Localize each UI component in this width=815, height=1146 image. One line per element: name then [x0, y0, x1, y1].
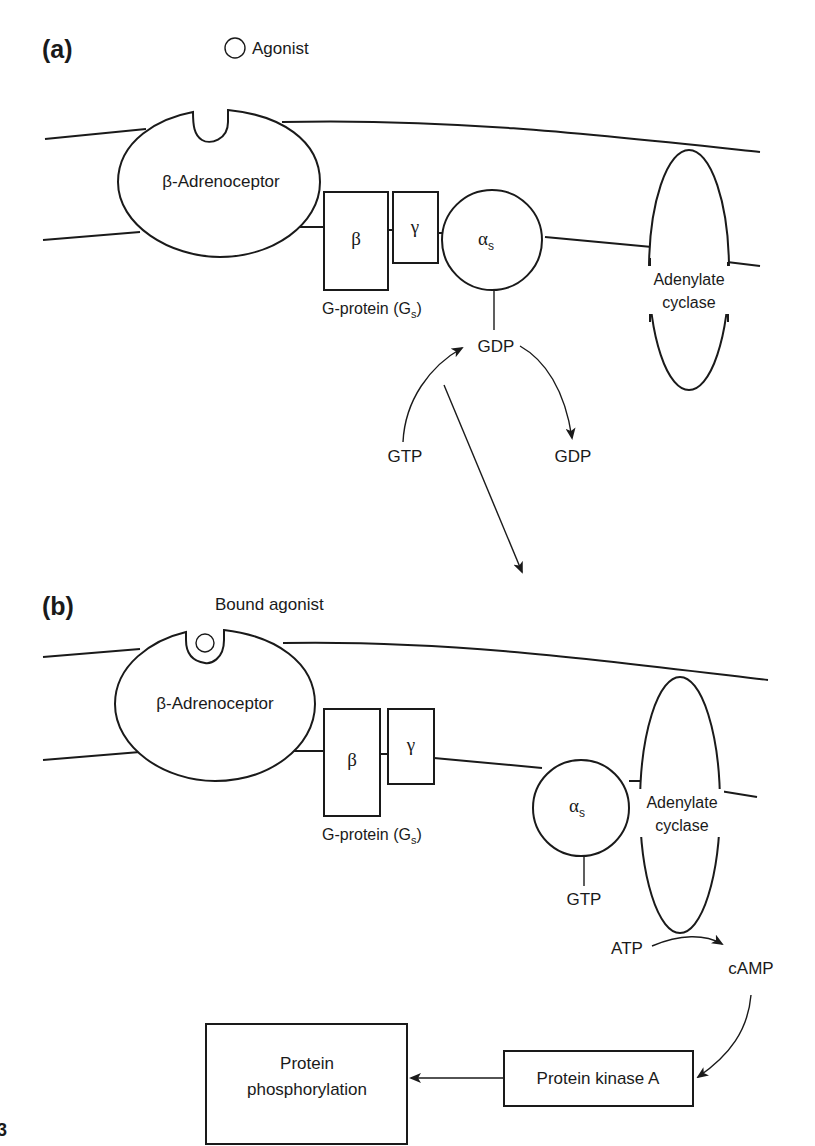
protein-phosphorylation-line2: phosphorylation	[247, 1080, 367, 1099]
g-protein-label: G-protein (Gs)	[322, 826, 422, 846]
agonist-label: Agonist	[252, 39, 309, 58]
g-beta-label: β	[351, 228, 361, 249]
membrane-outer-left	[45, 129, 146, 139]
panel-a-label: (a)	[42, 35, 73, 63]
membrane-inner-right	[720, 791, 757, 797]
g-gamma-label: γ	[410, 216, 419, 237]
agonist-icon	[225, 38, 245, 58]
membrane-inner-mid	[434, 758, 542, 768]
adenylate-cyclase-label-line2: cyclase	[655, 817, 708, 834]
g-beta-label: β	[347, 749, 357, 770]
membrane-inner-right	[727, 262, 760, 266]
g-gamma-label: γ	[406, 734, 415, 755]
protein-phosphorylation-line1: Protein	[280, 1054, 334, 1073]
membrane-inner-mid	[545, 237, 652, 247]
membrane-outer-right	[282, 121, 760, 152]
panel-b-label: (b)	[42, 592, 74, 620]
adenylate-cyclase-label-line2: cyclase	[662, 294, 715, 311]
protein-kinase-a-label: Protein kinase A	[537, 1069, 661, 1088]
panel-b: (b) Bound agonist β-Adrenoceptor β γ G-p…	[42, 592, 774, 1144]
gs-protein-signaling-diagram: (a) Agonist β-Adrenoceptor β γ αs G-prot…	[0, 0, 815, 1146]
gdp-out-label: GDP	[555, 447, 592, 466]
bound-agonist-icon	[196, 634, 214, 652]
gtp-in-arrow	[403, 348, 462, 442]
transition-arrow	[444, 385, 522, 572]
camp-label: cAMP	[728, 959, 773, 978]
membrane-inner-left	[43, 232, 140, 240]
atp-to-camp-arrow	[652, 937, 722, 946]
bound-agonist-label: Bound agonist	[215, 595, 324, 614]
atp-label: ATP	[611, 939, 643, 958]
beta-adrenoceptor-label: β-Adrenoceptor	[156, 694, 274, 713]
g-protein-label: G-protein (Gs)	[322, 300, 422, 320]
panel-a: (a) Agonist β-Adrenoceptor β γ αs G-prot…	[42, 35, 760, 466]
bound-gdp-label: GDP	[478, 337, 515, 356]
membrane-outer-right	[283, 643, 768, 680]
bound-gtp-label: GTP	[567, 890, 602, 909]
gtp-in-label: GTP	[388, 447, 423, 466]
membrane-inner-left	[43, 752, 140, 760]
adenylate-cyclase-label-line1: Adenylate	[646, 794, 717, 811]
gdp-out-arrow	[520, 346, 572, 438]
camp-to-pka-arrow	[698, 995, 751, 1077]
figure-number-fragment: 3	[0, 1120, 7, 1140]
membrane-outer-left	[43, 649, 140, 657]
beta-adrenoceptor-label: β-Adrenoceptor	[162, 172, 280, 191]
adenylate-cyclase-label-line1: Adenylate	[653, 271, 724, 288]
